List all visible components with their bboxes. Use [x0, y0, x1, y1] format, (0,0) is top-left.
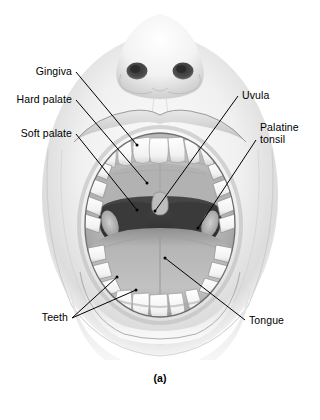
dot-uvula: [154, 210, 157, 213]
label-teeth: Teeth: [42, 312, 68, 324]
oral-cavity-illustration: [0, 0, 320, 420]
nostril-right-core: [176, 65, 186, 73]
dot-teeth-lower: [135, 289, 138, 292]
oral-cavity-figure: Gingiva Hard palate Soft palate Uvula Pa…: [0, 0, 320, 420]
label-soft-palate: Soft palate: [21, 128, 72, 140]
label-gingiva: Gingiva: [36, 66, 72, 78]
dot-gingiva: [136, 144, 139, 147]
dot-tongue: [164, 257, 167, 260]
label-tongue: Tongue: [249, 315, 284, 327]
figure-caption: (a): [0, 372, 320, 384]
dot-palatine-tonsil: [197, 227, 200, 230]
tooth-upper-1: [133, 137, 151, 164]
tooth-upper-2: [149, 138, 168, 164]
nostril-left-core: [130, 65, 140, 73]
label-uvula: Uvula: [242, 90, 269, 102]
label-palatine-tonsil-line1: Palatine: [260, 122, 299, 134]
tooth-upper-3: [168, 137, 185, 163]
dot-soft-palate: [136, 209, 139, 212]
dot-teeth-upper: [116, 276, 119, 279]
label-palatine-tonsil-line2: tonsil: [260, 134, 285, 146]
dot-hard-palate: [146, 182, 149, 185]
label-hard-palate: Hard palate: [17, 94, 72, 106]
